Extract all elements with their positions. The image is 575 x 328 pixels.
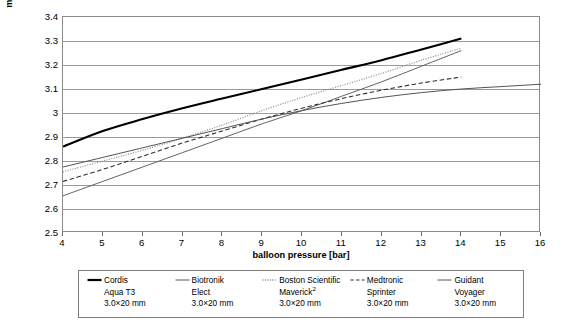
x-axis-tick-label: 8 xyxy=(219,237,224,248)
x-axis-tick-mark xyxy=(381,232,382,236)
x-axis-tick-mark xyxy=(221,232,222,236)
solid-thin-line-icon xyxy=(175,275,190,285)
x-axis-title: balloon pressure [bar] xyxy=(62,250,540,260)
solid-thick-line-icon xyxy=(87,275,102,285)
dashed-line-icon xyxy=(350,275,365,285)
x-axis-tick-label: 4 xyxy=(59,237,64,248)
x-axis-tick-mark xyxy=(460,232,461,236)
x-axis-tick-mark xyxy=(341,232,342,236)
legend-manufacturer-label: Cordis xyxy=(104,275,128,286)
x-axis-tick-label: 16 xyxy=(535,237,546,248)
x-axis-tick-mark xyxy=(540,232,541,236)
x-axis-tick-label: 11 xyxy=(336,237,346,248)
x-axis-tick-mark xyxy=(261,232,262,236)
series-line xyxy=(63,84,541,167)
chart-legend: CordisAqua T33.0×20 mmBiotronikElect3.0×… xyxy=(78,270,524,318)
series-line xyxy=(63,39,461,147)
y-axis-tick-label: 2.6 xyxy=(14,203,58,214)
x-axis-tick-mark xyxy=(62,232,63,236)
legend-size-label: 3.0×20 mm xyxy=(350,298,436,309)
y-axis-tick-label: 2.9 xyxy=(14,131,58,142)
x-axis-tick-label: 6 xyxy=(139,237,144,248)
legend-manufacturer-label: Medtronic xyxy=(367,275,403,286)
y-axis-tick-label: 3 xyxy=(14,107,58,118)
plot-area xyxy=(62,16,540,232)
x-axis-tick-label: 14 xyxy=(455,237,466,248)
legend-size-label: 3.0×20 mm xyxy=(87,298,173,309)
legend-size-label: 3.0×20 mm xyxy=(175,298,261,309)
x-axis-tick-label: 15 xyxy=(495,237,506,248)
legend-manufacturer-label: Biotronik xyxy=(192,275,224,286)
y-axis-tick-label: 3.1 xyxy=(14,83,58,94)
y-axis-tick-label: 3.4 xyxy=(14,11,58,22)
legend-size-label: 3.0×20 mm xyxy=(262,298,348,309)
legend-entry: BiotronikElect3.0×20 mm xyxy=(173,275,261,317)
x-axis-tick-labels: 45678910111213141516 xyxy=(62,232,540,252)
x-axis-tick-mark xyxy=(421,232,422,236)
x-axis-tick-label: 13 xyxy=(415,237,426,248)
legend-size-label: 3.0×20 mm xyxy=(437,298,523,309)
x-axis-tick-label: 5 xyxy=(99,237,104,248)
y-axis-tick-label: 3.3 xyxy=(14,35,58,46)
x-axis-tick-label: 10 xyxy=(296,237,307,248)
x-axis-tick-mark xyxy=(301,232,302,236)
legend-product-label: Sprinter xyxy=(350,287,436,298)
legend-entry: MedtronicSprinter3.0×20 mm xyxy=(348,275,436,317)
series-lines xyxy=(63,17,541,233)
y-axis-tick-label: 2.5 xyxy=(14,227,58,238)
x-axis-tick-label: 9 xyxy=(258,237,263,248)
legend-product-label: Aqua T3 xyxy=(87,287,173,298)
y-axis-tick-label: 3.2 xyxy=(14,59,58,70)
x-axis-tick-mark xyxy=(102,232,103,236)
legend-product-label: Maverick2 xyxy=(262,287,348,298)
y-axis-tick-label: 2.7 xyxy=(14,179,58,190)
legend-entry: GuidantVoyager3.0×20 mm xyxy=(435,275,523,317)
x-axis-tick-mark xyxy=(142,232,143,236)
x-axis-tick-mark xyxy=(500,232,501,236)
legend-entry: Boston ScientificMaverick23.0×20 mm xyxy=(260,275,348,317)
dotted-line-icon xyxy=(262,275,277,285)
series-line xyxy=(63,51,461,196)
legend-entry: CordisAqua T33.0×20 mm xyxy=(85,275,173,317)
legend-manufacturer-label: Boston Scientific xyxy=(279,275,340,286)
series-line xyxy=(63,77,461,181)
y-axis-tick-labels: 3.43.33.23.132.92.82.72.62.5 xyxy=(14,0,58,328)
legend-product-label: Elect xyxy=(175,287,261,298)
x-axis-tick-mark xyxy=(182,232,183,236)
solid-thin-line-icon xyxy=(437,275,452,285)
x-axis-tick-label: 7 xyxy=(179,237,184,248)
legend-manufacturer-label: Guidant xyxy=(454,275,483,286)
series-line xyxy=(63,48,461,172)
y-axis-tick-label: 2.8 xyxy=(14,155,58,166)
balloon-diameter-pressure-chart: mean balloon diameter [mm] 3.43.33.23.13… xyxy=(0,0,575,328)
x-axis-tick-label: 12 xyxy=(375,237,386,248)
legend-product-label: Voyager xyxy=(437,287,523,298)
